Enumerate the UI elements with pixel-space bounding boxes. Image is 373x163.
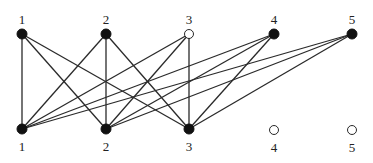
top-node-5-filled xyxy=(347,29,357,39)
bottom-node-5-open xyxy=(348,126,357,135)
edge-T5-B1 xyxy=(22,34,352,129)
top-node-label-3: 3 xyxy=(186,12,193,27)
edge-T4-B3 xyxy=(189,34,274,129)
top-node-3-open xyxy=(185,30,194,39)
bottom-node-label-5: 5 xyxy=(349,140,356,155)
top-node-1-filled xyxy=(17,29,27,39)
edge-T4-B2 xyxy=(106,34,274,129)
bottom-node-3-filled xyxy=(184,124,194,134)
bottom-node-1-filled xyxy=(17,124,27,134)
edges-layer xyxy=(22,34,352,129)
bottom-node-label-1: 1 xyxy=(19,139,26,154)
top-node-label-2: 2 xyxy=(103,12,110,27)
bottom-node-label-4: 4 xyxy=(271,140,278,155)
top-node-2-filled xyxy=(101,29,111,39)
edge-T5-B3 xyxy=(189,34,352,129)
bottom-node-2-filled xyxy=(101,124,111,134)
edge-T4-B1 xyxy=(22,34,274,129)
bottom-node-label-2: 2 xyxy=(103,139,110,154)
top-node-label-4: 4 xyxy=(271,12,278,27)
bottom-node-label-3: 3 xyxy=(186,139,193,154)
top-node-label-1: 1 xyxy=(19,12,26,27)
top-node-4-filled xyxy=(269,29,279,39)
top-node-label-5: 5 xyxy=(349,12,356,27)
edge-T5-B2 xyxy=(106,34,352,129)
bottom-node-4-open xyxy=(270,126,279,135)
bipartite-graph: 1234512345 xyxy=(0,0,373,163)
